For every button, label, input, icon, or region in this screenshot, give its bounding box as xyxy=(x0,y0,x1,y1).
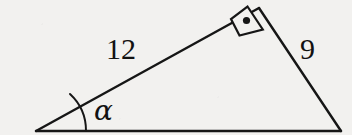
triangle-edge-right xyxy=(259,8,341,131)
triangle-edge-hypotenuse xyxy=(36,8,259,131)
right-angle-dot-icon xyxy=(243,17,250,24)
angle-label-alpha: α xyxy=(94,97,113,125)
triangle-figure: 12 9 α xyxy=(0,0,352,135)
angle-arc-alpha xyxy=(70,94,86,131)
side-length-label-12: 12 xyxy=(106,34,136,64)
triangle-svg xyxy=(0,0,352,135)
side-length-label-9: 9 xyxy=(300,34,315,64)
